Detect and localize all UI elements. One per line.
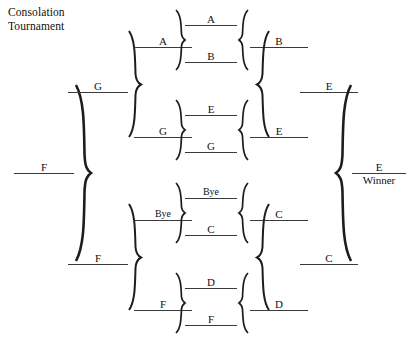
- tournament-bracket-diagram: ConsolationTournament F G F A G: [0, 0, 419, 352]
- bracket-slot-c4-s5: Bye: [185, 185, 237, 199]
- bracket-slot-c4-s1: A: [185, 12, 237, 26]
- slot-rule: [14, 173, 74, 174]
- bracket-slot-c1-s1: F: [14, 160, 74, 174]
- bracket-slot-c4-s2: B: [185, 49, 237, 63]
- bracket-slot-c4-s8: F: [185, 312, 237, 326]
- slot-label: Bye: [185, 186, 237, 198]
- slot-rule: [185, 325, 237, 326]
- slot-rule: [185, 235, 237, 236]
- slot-rule: [185, 115, 237, 116]
- winner-caption: Winner: [352, 174, 406, 187]
- brace-c6-s2: [256, 203, 274, 311]
- slot-label: B: [185, 50, 237, 62]
- slot-label: A: [185, 13, 237, 25]
- slot-rule: [185, 288, 237, 289]
- slot-rule: [185, 152, 237, 153]
- bracket-slot-c2-s2: F: [68, 251, 128, 265]
- brace-root: [70, 84, 92, 262]
- bracket-slot-c4-s7: D: [185, 275, 237, 289]
- title-line-1: Consolation: [8, 6, 65, 18]
- winner-label: E: [352, 161, 406, 173]
- brace-c3-s2: [172, 99, 186, 161]
- bracket-slot-c2-s1: G: [68, 79, 128, 93]
- slot-rule: [68, 92, 128, 93]
- slot-label: G: [68, 80, 128, 92]
- slot-rule: [185, 198, 237, 199]
- slot-label: F: [14, 161, 74, 173]
- diagram-title: ConsolationTournament: [8, 6, 65, 33]
- slot-rule: [185, 25, 237, 26]
- slot-label: F: [185, 313, 237, 325]
- bracket-slot-c4-s3: E: [185, 102, 237, 116]
- bracket-slot-c4-s4: G: [185, 139, 237, 153]
- slot-rule: [300, 264, 358, 265]
- brace-c3-s1: [172, 9, 186, 71]
- slot-rule: [185, 62, 237, 63]
- brace-c6-s1: [256, 30, 274, 138]
- slot-label: D: [185, 276, 237, 288]
- slot-label: G: [185, 140, 237, 152]
- slot-rule: [68, 264, 128, 265]
- slot-label: C: [185, 223, 237, 235]
- title-line-2: Tournament: [8, 20, 64, 32]
- brace-c3-s3: [172, 182, 186, 244]
- slot-label: E: [185, 103, 237, 115]
- bracket-slot-winner: E Winner: [352, 160, 406, 174]
- brace-c3-s4: [172, 272, 186, 334]
- slot-label: F: [68, 252, 128, 264]
- bracket-slot-c4-s6: C: [185, 222, 237, 236]
